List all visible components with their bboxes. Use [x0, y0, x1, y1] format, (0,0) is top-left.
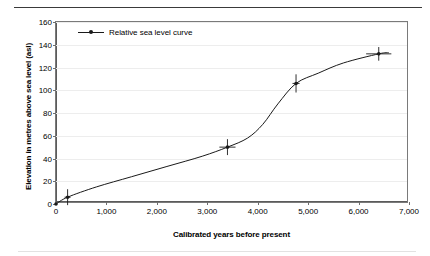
x-tick-label: 7,000	[399, 207, 419, 216]
top-divider-rule	[14, 7, 422, 8]
x-tick-label: 0	[54, 207, 58, 216]
x-tick-label: 2,000	[147, 207, 167, 216]
data-point	[293, 74, 300, 92]
data-point	[366, 47, 391, 61]
x-tick-label: 4,000	[248, 207, 268, 216]
chart-legend: Relative sea level curve	[78, 28, 192, 37]
y-tick-label: 140	[12, 40, 52, 49]
legend-marker-icon	[78, 28, 104, 37]
y-tick-label: 100	[12, 86, 52, 95]
y-tick-label: 160	[12, 18, 52, 27]
series-marker	[54, 202, 58, 206]
y-tick-label: 40	[12, 154, 52, 163]
x-tick-label: 1,000	[96, 207, 116, 216]
x-tick-label: 5,000	[298, 207, 318, 216]
data-point	[65, 189, 71, 205]
series-marker	[66, 195, 70, 199]
series-marker	[377, 52, 381, 56]
legend-item-label: Relative sea level curve	[109, 28, 192, 37]
data-point	[219, 139, 235, 155]
series-line	[56, 53, 389, 204]
data-point	[54, 202, 58, 206]
plot-inner: 02040608010012014016001,0002,0003,0004,0…	[56, 22, 407, 202]
x-tick-mark	[409, 202, 410, 205]
data-series-layer	[56, 22, 409, 204]
plot-area: 02040608010012014016001,0002,0003,0004,0…	[55, 21, 408, 203]
x-tick-label: 6,000	[349, 207, 369, 216]
chart-figure: Elevation in metres above sea level (asl…	[0, 0, 430, 256]
series-marker	[294, 82, 298, 86]
y-tick-label: 120	[12, 63, 52, 72]
y-tick-label: 0	[12, 200, 52, 209]
y-tick-label: 60	[12, 131, 52, 140]
x-tick-label: 3,000	[197, 207, 217, 216]
y-tick-label: 80	[12, 109, 52, 118]
y-tick-label: 20	[12, 177, 52, 186]
series-marker	[226, 145, 230, 149]
x-axis-title: Calibrated years before present	[55, 230, 408, 239]
bottom-divider-rule	[18, 251, 416, 252]
